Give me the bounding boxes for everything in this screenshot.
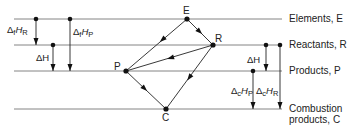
level-label-products: Products, P bbox=[289, 65, 341, 76]
point-c-dot bbox=[163, 106, 168, 111]
label-df-hp: ΔfHP bbox=[73, 27, 93, 40]
level-label-combustion-1: Combustion bbox=[289, 103, 342, 114]
label-dc-hr: ΔcHR bbox=[256, 86, 278, 99]
level-label-elements: Elements, E bbox=[289, 13, 343, 24]
level-label-reactants: Reactants, R bbox=[289, 39, 347, 50]
point-label-r: R bbox=[215, 34, 222, 44]
arrow-dh-left bbox=[51, 43, 56, 71]
arrow-dc-hr bbox=[278, 43, 283, 109]
cycle-arrowheads bbox=[140, 27, 204, 92]
arrow-df-hr bbox=[34, 17, 39, 45]
label-dc-hp: ΔcHP bbox=[231, 86, 253, 99]
level-label-combustion-2: products, C bbox=[289, 114, 340, 125]
point-label-p: P bbox=[114, 62, 121, 72]
label-dh-right: ΔH bbox=[247, 55, 260, 65]
arrow-dh-right bbox=[264, 43, 269, 71]
point-p-dot bbox=[123, 68, 128, 73]
label-df-hr: ΔfHR bbox=[7, 25, 28, 38]
point-label-e: E bbox=[183, 6, 190, 16]
point-label-c: C bbox=[162, 113, 169, 123]
point-e-dot bbox=[184, 16, 189, 21]
label-dh-left: ΔH bbox=[36, 53, 49, 63]
arrow-df-hp bbox=[68, 17, 73, 71]
